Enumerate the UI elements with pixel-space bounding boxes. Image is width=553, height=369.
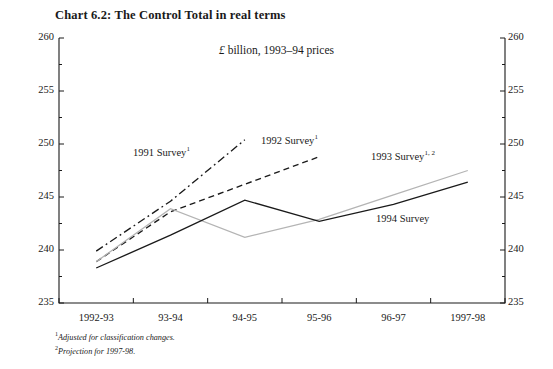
footnote-text: Projection for 1997-98. <box>58 346 135 355</box>
series-label-footnote-mark: 1 <box>186 145 190 153</box>
y-axis-label-left: 245 <box>20 190 54 201</box>
y-axis-label-right: 235 <box>508 296 544 307</box>
y-axis-label-right: 250 <box>508 137 544 148</box>
x-axis-label: 1997-98 <box>428 312 508 323</box>
series-label-footnote-mark: 1 <box>314 133 318 141</box>
y-axis-label-left: 250 <box>20 137 54 148</box>
axes-group <box>59 38 505 303</box>
chart-container: Chart 6.2: The Control Total in real ter… <box>0 0 553 369</box>
series-label-text: 1992 Survey <box>261 135 314 146</box>
series-label-text: 1991 Survey <box>133 147 186 158</box>
series-label: 1993 Survey1, 2 <box>371 149 435 162</box>
x-axis-label: 93-94 <box>131 312 211 323</box>
x-axis-label: 96-97 <box>354 312 434 323</box>
footnote-item: 1Adjusted for classification changes. <box>55 330 175 344</box>
footnote-text: Adjusted for classification changes. <box>58 333 175 342</box>
y-axis-label-left: 260 <box>20 31 54 42</box>
x-axis-label: 1992-93 <box>56 312 136 323</box>
footnote-item: 2Projection for 1997-98. <box>55 344 175 358</box>
y-axis-label-left: 235 <box>20 296 54 307</box>
y-axis-label-right: 260 <box>508 31 544 42</box>
y-axis-label-right: 255 <box>508 84 544 95</box>
series-label: 1992 Survey1 <box>261 133 318 146</box>
series-line <box>96 182 468 268</box>
chart-footnotes: 1Adjusted for classification changes.2Pr… <box>55 330 175 357</box>
series-label: 1991 Survey1 <box>133 145 190 158</box>
series-label-text: 1994 Survey <box>376 213 429 224</box>
x-axis-label: 95-96 <box>279 312 359 323</box>
series-label-footnote-mark: 1, 2 <box>424 149 435 157</box>
y-axis-label-right: 245 <box>508 190 544 201</box>
y-axis-label-left: 255 <box>20 84 54 95</box>
y-axis-label-left: 240 <box>20 243 54 254</box>
y-axis-label-right: 240 <box>508 243 544 254</box>
x-axis-label: 94-95 <box>205 312 285 323</box>
series-label-text: 1993 Survey <box>371 151 424 162</box>
series-line <box>96 157 319 262</box>
series-label: 1994 Survey <box>376 213 429 224</box>
